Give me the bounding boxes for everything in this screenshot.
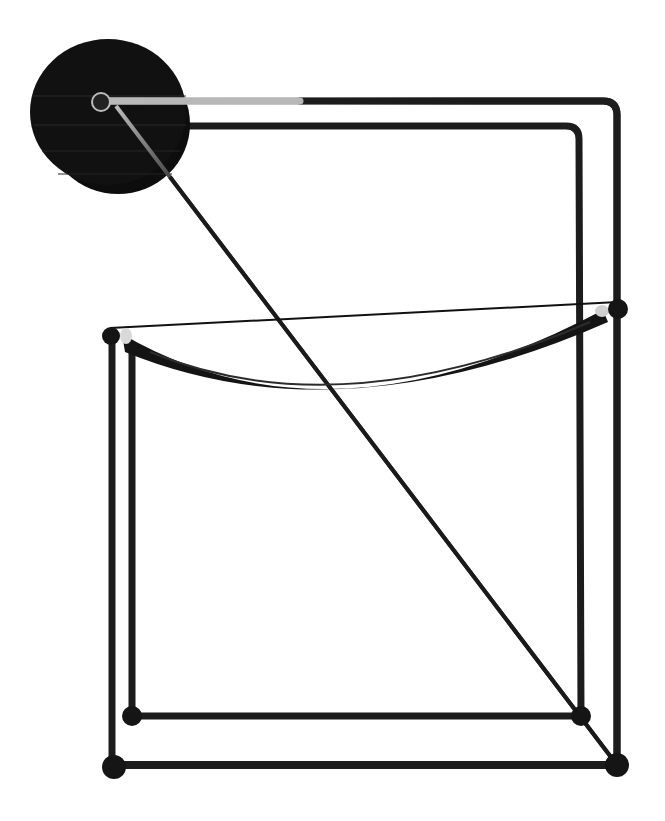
joint-front-right	[608, 299, 628, 319]
foot-back-left	[122, 706, 142, 726]
seat-cap-left	[120, 328, 132, 344]
pivot-ring	[92, 93, 110, 111]
chair-photo	[0, 0, 665, 821]
foot-front-right	[605, 753, 629, 777]
seat-cap-right	[595, 305, 609, 317]
joint-front-left	[102, 327, 120, 345]
foot-back-right	[571, 706, 591, 726]
foot-front-left	[102, 755, 126, 779]
